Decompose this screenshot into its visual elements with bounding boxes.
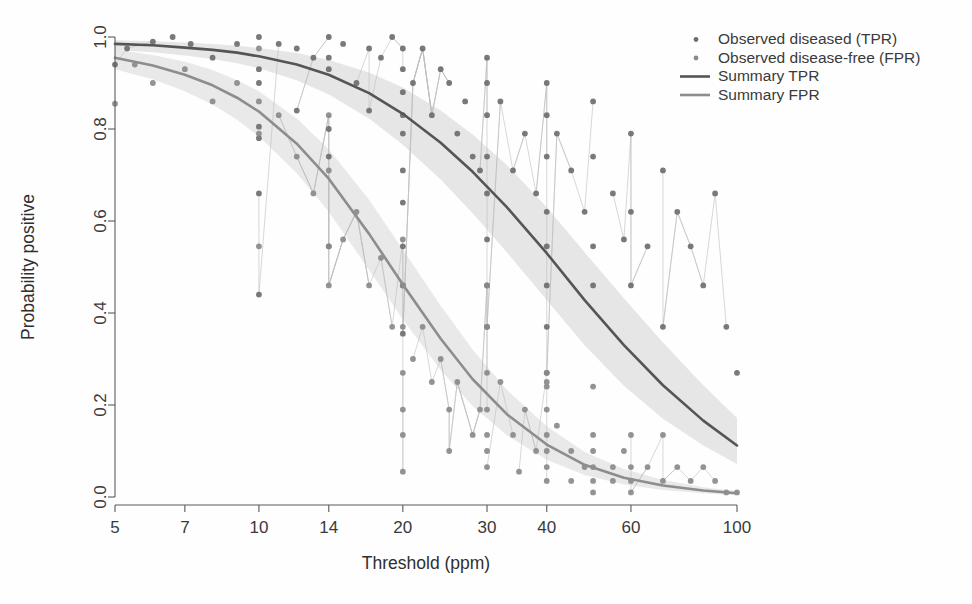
observed-point [400,89,406,95]
observed-point [544,370,550,376]
observed-point [568,448,574,454]
observed-point [366,283,372,289]
observed-point [484,448,490,454]
observed-point [256,292,262,298]
x-axis-title: Threshold (ppm) [362,553,490,573]
observed-point [326,168,332,174]
observed-point [554,131,560,137]
observed-point [484,464,490,470]
observed-point [544,478,550,484]
observed-point [326,34,332,40]
observed-point [400,407,406,413]
x-tick-label: 100 [723,518,751,537]
x-tick-label: 10 [249,518,268,537]
x-tick-label: 7 [180,518,189,537]
observed-point [484,370,490,376]
legend-label: Summary FPR [718,86,820,103]
legend-label: Observed diseased (TPR) [718,30,897,47]
observed-point [389,34,395,40]
observed-point [256,46,262,52]
observed-point [510,432,516,438]
y-tick-label: 1.0 [91,25,110,49]
observed-point [544,243,550,249]
observed-point [660,324,666,330]
observed-point [256,80,262,86]
observed-point [484,80,490,86]
observed-point [522,407,528,413]
observed-point [276,41,282,47]
observed-point [484,432,490,438]
study-line [663,193,726,326]
observed-point [438,356,444,362]
observed-point [124,46,130,52]
observed-point [366,46,372,52]
observed-point [660,432,666,438]
observed-point [400,469,406,475]
x-tick-label: 20 [393,518,412,537]
observed-point [568,168,574,174]
study-line [663,170,677,326]
observed-point [438,66,444,72]
observed-point [400,324,406,330]
x-tick-label: 60 [621,518,640,537]
y-tick-label: 0.0 [91,485,110,509]
confidence-bands [115,40,737,495]
confidence-band [115,40,737,464]
observed-point [446,448,452,454]
observed-point [628,283,634,289]
observed-point [544,154,550,160]
chart-container: 0.00.20.40.60.81.057101420304060100Thres… [0,0,972,604]
observed-point [610,464,616,470]
observed-point [660,478,666,484]
observed-point [712,191,718,197]
observed-point [498,379,504,385]
observed-point [590,478,596,484]
observed-point [326,283,332,289]
observed-point [326,66,332,72]
observed-point [610,478,616,484]
observed-point [150,39,156,45]
observed-point [590,432,596,438]
observed-point [628,432,634,438]
observed-point [256,66,262,72]
observed-point [420,324,426,330]
observed-point [310,55,316,61]
observed-point [554,423,560,429]
roc-threshold-chart: 0.00.20.40.60.81.057101420304060100Thres… [0,0,972,604]
observed-point [628,131,634,137]
observed-point [429,379,435,385]
observed-point [522,131,528,137]
observed-point [400,46,406,52]
observed-point [400,200,406,206]
observed-point [477,407,483,413]
observed-point [533,191,539,197]
observed-point [712,478,718,484]
observed-point [446,80,452,86]
observed-point [544,112,550,118]
y-tick-label: 0.6 [91,209,110,233]
observed-point [477,168,483,174]
observed-point [389,324,395,330]
y-tick-label: 0.8 [91,117,110,141]
observed-point [470,432,476,438]
observed-point [410,80,416,86]
observed-point [400,237,406,243]
observed-point [429,112,435,118]
observed-point [310,191,316,197]
observed-point [484,55,490,61]
observed-point [590,99,596,105]
observed-point [256,124,262,130]
observed-point [484,324,490,330]
observed-point [256,191,262,197]
observed-point [294,154,300,160]
observed-point [700,283,706,289]
observed-point [590,283,596,289]
observed-point [610,191,616,197]
observed-point [544,324,550,330]
observed-point [484,112,490,118]
observed-point [326,243,332,249]
observed-point [256,243,262,249]
observed-point [446,407,452,413]
observed-point [734,370,740,376]
observed-point [674,209,680,215]
